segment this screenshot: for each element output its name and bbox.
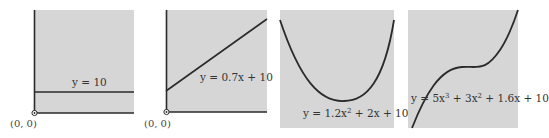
cubic-curve	[412, 10, 518, 128]
origin-label: (0, 0)	[10, 118, 37, 129]
origin-label: (0, 0)	[144, 118, 171, 129]
parabola-curve	[280, 20, 394, 101]
equation-linear: y = 0.7x + 10	[200, 71, 273, 83]
equation-quadratic: y = 1.2x2 + 2x + 10	[303, 107, 408, 119]
equation-cubic: y = 5x3 + 3x2 + 1.6x + 10	[411, 92, 549, 104]
equation-constant: y = 10	[72, 76, 107, 88]
